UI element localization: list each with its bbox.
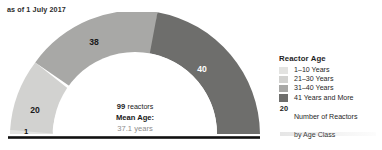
segment-value-20: 20 xyxy=(30,105,40,115)
legend-label-21-30-years: 21–30 Years xyxy=(294,75,333,84)
reactor-age-figure: as of 1 July 2017 1 20 38 40 99reactors xyxy=(0,0,382,150)
legend-item-1-10-years[interactable]: 1–10 Years xyxy=(279,66,379,75)
legend-item-41-plus-years[interactable]: 41 Years and More xyxy=(279,94,379,103)
legend: Reactor Age 1–10 Years 21–30 Years 31–40… xyxy=(279,54,379,141)
legend-label-41-plus-years: 41 Years and More xyxy=(294,94,354,103)
legend-swatch-31-40-years xyxy=(279,85,288,93)
legend-title: Reactor Age xyxy=(279,54,379,63)
center-mean-label: Mean Age: xyxy=(116,113,154,122)
legend-item-31-40-years[interactable]: 31–40 Years xyxy=(279,84,379,93)
segment-value-38: 38 xyxy=(89,37,99,47)
legend-label-1-10-years: 1–10 Years xyxy=(294,66,330,75)
center-mean-value: 37.1 years xyxy=(117,124,153,133)
center-total-value: 99 xyxy=(117,102,125,111)
legend-swatch-1-10-years xyxy=(279,67,288,75)
legend-swatch-21-30-years xyxy=(279,76,288,84)
center-total: 99reactors xyxy=(117,102,154,111)
half-donut-chart: 1 20 38 40 99reactors Mean Age: 37.1 yea… xyxy=(4,12,266,146)
legend-item-21-30-years[interactable]: 21–30 Years xyxy=(279,75,379,84)
footer-source-smudge xyxy=(280,132,376,136)
legend-note-number: 20 xyxy=(279,105,288,114)
baseline-rule xyxy=(8,136,260,139)
donut-svg: 1 20 38 40 99reactors Mean Age: 37.1 yea… xyxy=(4,12,266,146)
legend-label-31-40-years: 31–40 Years xyxy=(294,84,333,93)
legend-note-line1: Number of Reactors xyxy=(294,113,357,121)
legend-swatch-41-plus-years xyxy=(279,94,288,102)
segment-value-40: 40 xyxy=(197,64,207,74)
center-total-unit: reactors xyxy=(128,103,154,111)
